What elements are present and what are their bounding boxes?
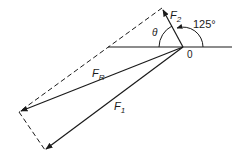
label-fr: FR	[92, 67, 105, 82]
dashed-line-left	[19, 112, 45, 150]
force-vector-diagram: F2 125° θ 0 FR F1	[0, 0, 242, 159]
label-angle-125: 125°	[193, 18, 216, 30]
label-f1: F1	[114, 100, 125, 115]
label-theta: θ	[152, 27, 158, 38]
angle-arc-theta	[159, 26, 172, 47]
label-f2: F2	[170, 9, 182, 24]
vector-f1	[46, 47, 183, 149]
dashed-line-top	[19, 8, 162, 112]
label-origin: 0	[187, 49, 193, 60]
